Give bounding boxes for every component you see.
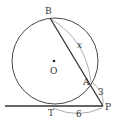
label-A: A xyxy=(82,77,90,87)
label-P: P xyxy=(105,102,111,112)
label-B: B xyxy=(45,6,52,16)
label-x: x xyxy=(77,40,82,50)
label-O: O xyxy=(50,66,57,76)
label-6: 6 xyxy=(76,109,82,119)
label-T: T xyxy=(48,108,54,118)
geometry-diagram: B O A T P x 3 6 xyxy=(0,0,116,119)
secant-line xyxy=(50,18,103,106)
label-3: 3 xyxy=(98,87,104,97)
center-point xyxy=(53,60,56,63)
